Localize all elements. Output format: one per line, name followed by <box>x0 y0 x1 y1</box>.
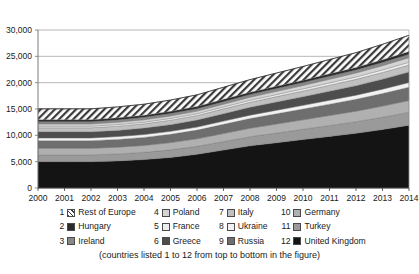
legend-number: 1 <box>53 207 64 219</box>
figure-caption: (countries listed 1 to 12 from top to bo… <box>0 250 419 260</box>
svg-text:2010: 2010 <box>294 193 313 203</box>
legend-label: Rest of Europe <box>78 207 135 219</box>
legend-swatch-icon <box>227 209 235 217</box>
legend-label: Turkey <box>304 221 330 233</box>
svg-text:10,000: 10,000 <box>6 130 32 140</box>
legend-label: Greece <box>173 236 201 248</box>
svg-text:2006: 2006 <box>188 193 207 203</box>
legend-number: 6 <box>148 236 159 248</box>
legend-number: 4 <box>148 207 159 219</box>
chart-legend: 1 Rest of Europe 4 Poland 7 Italy 10 Ger… <box>0 206 419 248</box>
legend-label: France <box>173 221 200 233</box>
legend-swatch-icon <box>227 223 235 231</box>
svg-text:2014: 2014 <box>400 193 419 203</box>
svg-text:0: 0 <box>27 183 32 193</box>
legend-swatch-icon <box>162 223 170 231</box>
legend-item: 12 United Kingdom <box>279 235 365 248</box>
legend-item: 6 Greece <box>148 235 201 248</box>
legend-swatch-icon <box>293 209 301 217</box>
legend-item: 8 Ukraine <box>213 220 268 233</box>
legend-number: 8 <box>213 221 224 233</box>
legend-item: 3 Ireland <box>53 235 135 248</box>
legend-label: Poland <box>173 207 200 219</box>
legend-number: 5 <box>148 221 159 233</box>
legend-item: 11 Turkey <box>279 220 365 233</box>
svg-text:2013: 2013 <box>373 193 392 203</box>
svg-text:5,000: 5,000 <box>11 157 33 167</box>
svg-text:2008: 2008 <box>241 193 260 203</box>
legend-label: Italy <box>238 207 254 219</box>
legend-swatch-icon <box>67 209 75 217</box>
legend-item: 10 Germany <box>279 206 365 219</box>
legend-swatch-icon <box>67 223 75 231</box>
svg-text:2011: 2011 <box>320 193 339 203</box>
svg-text:2003: 2003 <box>108 193 127 203</box>
chart-svg: 30,00025,00020,00015,00010,0005,00002000… <box>0 0 419 205</box>
legend-swatch-icon <box>227 237 235 245</box>
stacked-area-chart: 30,00025,00020,00015,00010,0005,00002000… <box>0 0 419 205</box>
svg-text:2005: 2005 <box>161 193 180 203</box>
legend-swatch-icon <box>162 209 170 217</box>
legend-label: Russia <box>238 236 264 248</box>
legend-item: 1 Rest of Europe <box>53 206 135 219</box>
svg-text:2004: 2004 <box>135 193 154 203</box>
svg-text:2012: 2012 <box>347 193 366 203</box>
legend-number: 10 <box>279 207 290 219</box>
legend-number: 12 <box>279 236 290 248</box>
svg-text:2007: 2007 <box>214 193 233 203</box>
svg-text:2002: 2002 <box>82 193 101 203</box>
legend-label: Ukraine <box>238 221 268 233</box>
svg-text:2009: 2009 <box>267 193 286 203</box>
legend-grid: 1 Rest of Europe 4 Poland 7 Italy 10 Ger… <box>53 206 365 248</box>
legend-swatch-icon <box>293 223 301 231</box>
legend-label: United Kingdom <box>304 236 365 248</box>
legend-item: 2 Hungary <box>53 220 135 233</box>
svg-text:25,000: 25,000 <box>6 51 32 61</box>
legend-number: 7 <box>213 207 224 219</box>
figure-container: 30,00025,00020,00015,00010,0005,00002000… <box>0 0 419 274</box>
legend-swatch-icon <box>293 237 301 245</box>
legend-number: 9 <box>213 236 224 248</box>
legend-item: 5 France <box>148 220 201 233</box>
svg-text:2001: 2001 <box>55 193 74 203</box>
svg-text:15,000: 15,000 <box>6 104 32 114</box>
legend-number: 2 <box>53 221 64 233</box>
svg-text:2000: 2000 <box>29 193 48 203</box>
legend-swatch-icon <box>67 237 75 245</box>
svg-text:20,000: 20,000 <box>6 78 32 88</box>
legend-label: Hungary <box>78 221 110 233</box>
legend-item: 4 Poland <box>148 206 201 219</box>
legend-swatch-icon <box>162 237 170 245</box>
legend-item: 7 Italy <box>213 206 268 219</box>
legend-label: Ireland <box>78 236 104 248</box>
legend-number: 3 <box>53 236 64 248</box>
svg-text:30,000: 30,000 <box>6 25 32 35</box>
legend-label: Germany <box>304 207 339 219</box>
legend-item: 9 Russia <box>213 235 268 248</box>
legend-number: 11 <box>279 221 290 233</box>
